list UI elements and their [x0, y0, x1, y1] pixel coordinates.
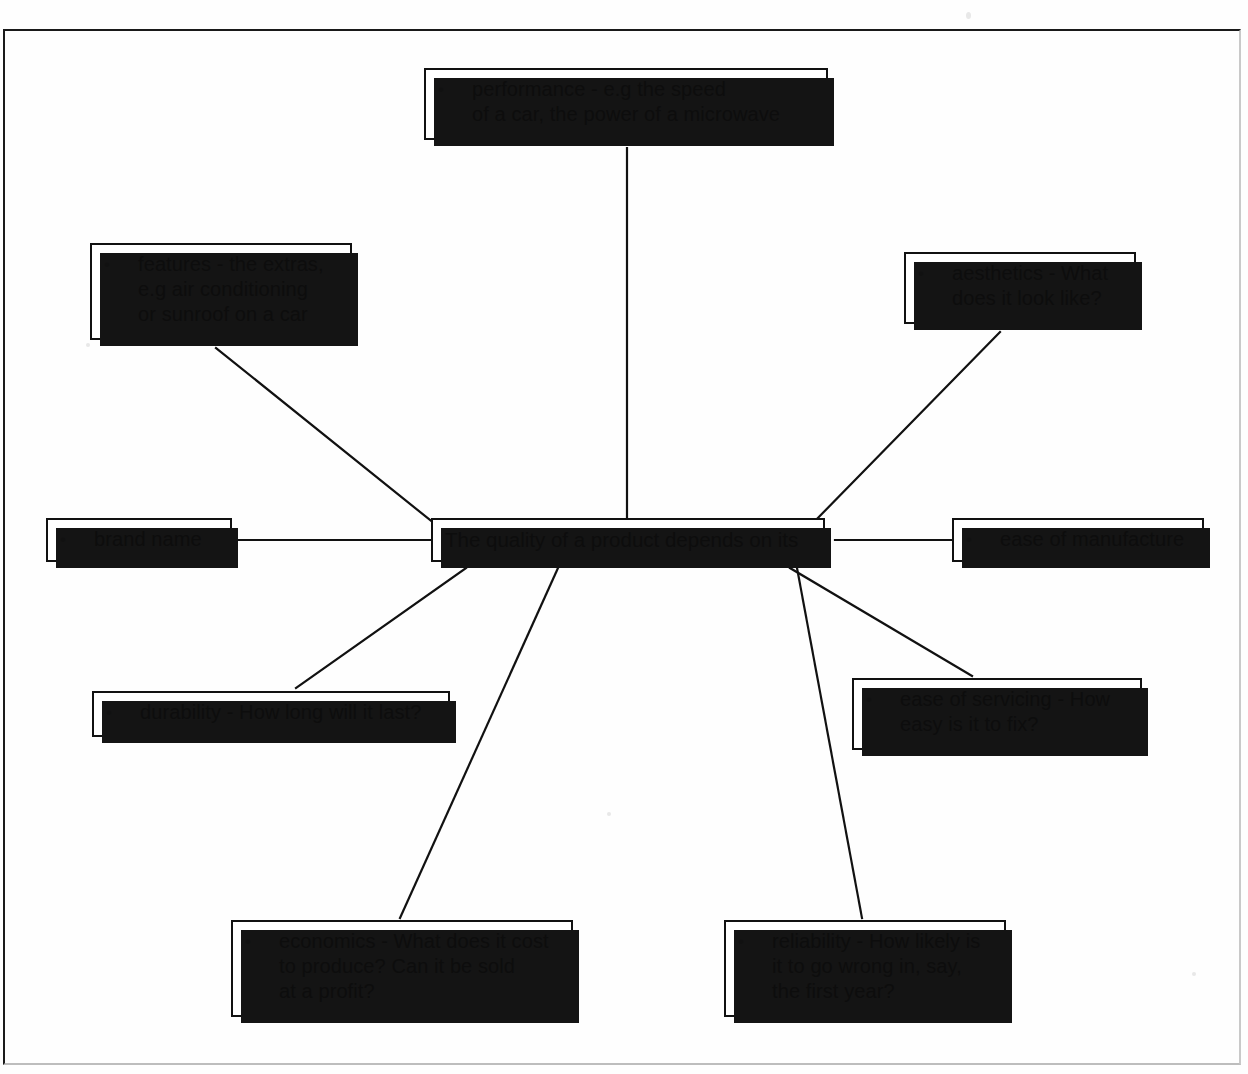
connector-center-to-features	[216, 348, 440, 528]
node-label-brand-name: brand name	[94, 527, 220, 552]
node-ease-of-servicing[interactable]: •ease of servicing - How easy is it to f…	[852, 678, 1142, 750]
bullet-icon: •	[866, 687, 900, 712]
central-node-label: The quality of a product depends on its	[445, 527, 798, 553]
node-label-ease-of-manufacture: ease of manufacture	[1000, 527, 1192, 552]
bullet-icon: •	[918, 261, 952, 286]
node-durability[interactable]: •durability - How long will it last?	[92, 691, 450, 737]
bullet-icon: •	[245, 929, 279, 954]
diagram-page: The quality of a product depends on its …	[0, 0, 1248, 1074]
connector-center-to-economics	[400, 568, 558, 918]
node-ease-of-manufacture[interactable]: •ease of manufacture	[952, 518, 1204, 562]
node-label-performance: performance - e.g the speed of a car, th…	[472, 77, 816, 127]
connector-center-to-durability	[296, 568, 466, 688]
connector-center-to-aesthetics	[812, 332, 1000, 524]
connector-center-to-ease-of-servicing	[790, 568, 972, 676]
bullet-icon: •	[106, 700, 140, 725]
node-label-features: features - the extras, e.g air condition…	[138, 252, 340, 327]
node-label-reliability: reliability - How likely is it to go wro…	[772, 929, 994, 1004]
node-economics[interactable]: •economics - What does it cost to produc…	[231, 920, 573, 1017]
central-node[interactable]: The quality of a product depends on its	[431, 518, 825, 562]
node-label-durability: durability - How long will it last?	[140, 700, 438, 725]
node-label-aesthetics: aesthetics - What does it look like?	[952, 261, 1124, 311]
bullet-icon: •	[966, 527, 1000, 552]
node-reliability[interactable]: •reliability - How likely is it to go wr…	[724, 920, 1006, 1017]
bullet-icon: •	[60, 527, 94, 552]
node-features[interactable]: •features - the extras, e.g air conditio…	[90, 243, 352, 340]
node-performance[interactable]: •performance - e.g the speed of a car, t…	[424, 68, 828, 140]
node-label-economics: economics - What does it cost to produce…	[279, 929, 561, 1004]
bullet-icon: •	[738, 929, 772, 954]
node-aesthetics[interactable]: •aesthetics - What does it look like?	[904, 252, 1136, 324]
bullet-icon: •	[438, 77, 472, 102]
node-label-ease-of-servicing: ease of servicing - How easy is it to fi…	[900, 687, 1130, 737]
bullet-icon: •	[104, 252, 138, 277]
node-brand-name[interactable]: •brand name	[46, 518, 232, 562]
